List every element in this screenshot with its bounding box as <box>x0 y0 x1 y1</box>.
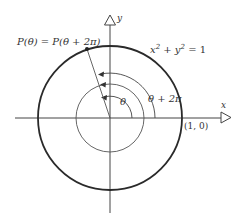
theta-plus-2pi-label: θ + 2π <box>148 94 182 104</box>
y-axis-arrow-icon <box>105 15 116 25</box>
point-label: P(θ) = P(θ + 2π) <box>17 37 101 47</box>
circle-equation: x2 + y2 = 1 <box>150 45 206 55</box>
unit-circle-diagram <box>0 0 238 220</box>
unit-point-label: (1, 0) <box>184 122 208 131</box>
x-axis-label: x <box>221 101 226 110</box>
eq-rhs: = 1 <box>185 44 206 55</box>
y-axis-label: y <box>117 14 122 23</box>
theta-label: θ <box>120 97 126 107</box>
radius-line <box>87 49 110 118</box>
arc-arrowhead-icon <box>98 72 104 78</box>
theta-arc <box>104 96 132 118</box>
point-p <box>85 47 89 51</box>
eq-y: + y <box>160 44 180 55</box>
theta-plus-2pi-arc <box>101 73 155 118</box>
x-axis-arrow-icon <box>221 112 231 123</box>
arc-arrowhead-icon <box>100 82 106 88</box>
